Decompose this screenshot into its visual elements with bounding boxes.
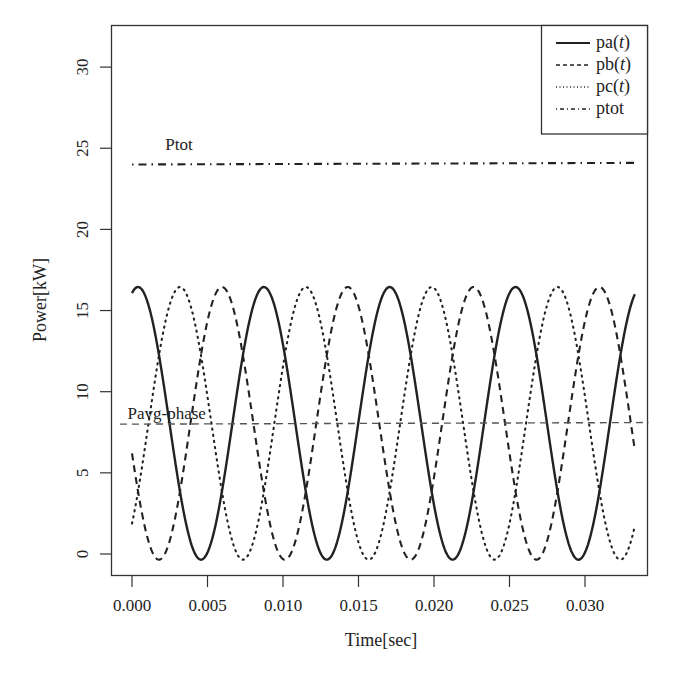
y-tick-label: 10 [73, 383, 92, 400]
x-tick-label: 0.000 [113, 596, 151, 615]
annotation-ptot: Ptot [165, 135, 193, 154]
power-chart: 0.0000.0050.0100.0150.0200.0250.030 0510… [0, 0, 682, 684]
y-axis-title: Power[kW] [30, 258, 50, 342]
x-tick-label: 0.010 [264, 596, 302, 615]
legend-label-pc: pc(t) [596, 76, 630, 97]
y-tick-label: 0 [73, 550, 92, 559]
legend: pa(t)pb(t)pc(t)ptot [542, 26, 648, 135]
y-tick-label: 20 [73, 221, 92, 238]
legend-box [542, 26, 648, 135]
y-tick-label: 25 [73, 140, 92, 157]
y-tick-label: 30 [73, 59, 92, 76]
legend-label-ptot: ptot [596, 98, 624, 118]
x-tick-label: 0.015 [339, 596, 377, 615]
x-tick-label: 0.005 [188, 596, 226, 615]
annotation-pavg-phase: Pavg-phase [127, 404, 205, 423]
x-tick-label: 0.025 [490, 596, 528, 615]
y-tick-label: 5 [73, 469, 92, 478]
x-axis-title: Time[sec] [345, 630, 417, 650]
legend-label-pa: pa(t) [596, 32, 630, 53]
x-tick-label: 0.020 [415, 596, 453, 615]
legend-label-pb: pb(t) [596, 54, 631, 75]
y-tick-label: 15 [73, 302, 92, 319]
x-tick-label: 0.030 [566, 596, 604, 615]
